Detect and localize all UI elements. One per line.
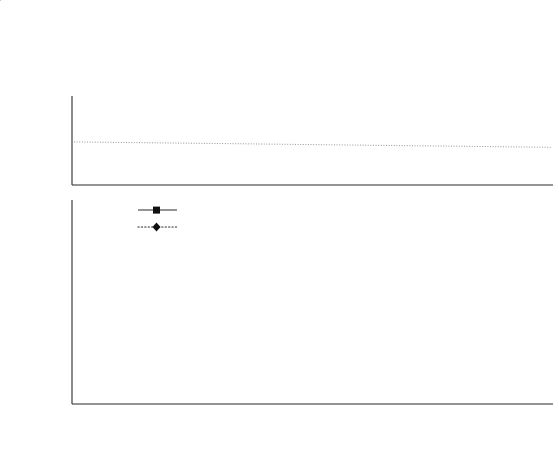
coronary-mortality-figure — [0, 0, 559, 462]
figure-background — [0, 0, 559, 462]
legend-male-square-marker — [153, 207, 160, 214]
figure-container — [0, 0, 559, 462]
